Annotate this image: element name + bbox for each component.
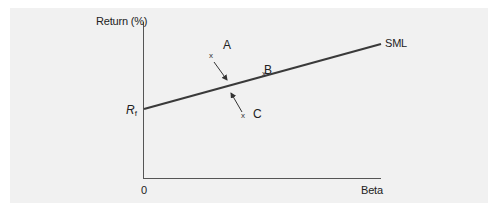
y-axis-label: Return (%) — [96, 16, 147, 27]
sml-diagram — [0, 0, 498, 213]
point-a-label: A — [223, 39, 231, 51]
rf-main: R — [126, 103, 135, 117]
rf-sub: f — [135, 109, 137, 118]
sml-label: SML — [385, 38, 407, 49]
arrow-a-icon — [214, 62, 227, 80]
point-b-label: B — [264, 64, 272, 76]
origin-label: 0 — [141, 185, 147, 196]
arrow-c-icon — [231, 93, 242, 112]
point-c-label: C — [253, 108, 262, 120]
point-c-marker-icon: x — [241, 112, 245, 120]
point-a-marker-icon: x — [209, 52, 213, 60]
x-axis-label: Beta — [361, 185, 383, 196]
risk-free-rate-label: Rf — [126, 104, 137, 118]
